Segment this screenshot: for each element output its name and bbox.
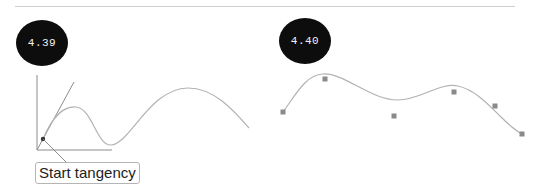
figure-number-badge: 4.39 — [16, 20, 68, 66]
control-point — [493, 104, 498, 109]
control-point — [452, 90, 457, 95]
spline-curve — [283, 74, 522, 134]
control-point — [392, 114, 397, 119]
figure-number-badge: 4.40 — [279, 18, 331, 64]
control-point — [520, 132, 525, 137]
control-point — [281, 110, 286, 115]
start-tangency-label: Start tangency — [35, 162, 140, 184]
left-figure — [37, 75, 249, 162]
right-figure — [281, 74, 525, 137]
curve — [43, 88, 249, 145]
control-point — [323, 77, 328, 82]
